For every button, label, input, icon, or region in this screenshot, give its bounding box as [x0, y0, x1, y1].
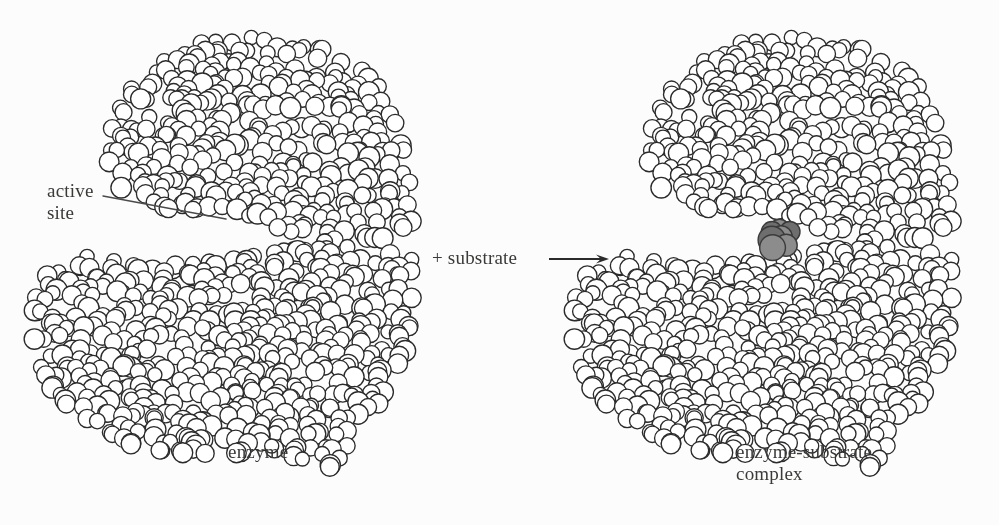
active-site-label: active site	[47, 180, 94, 225]
figure-page: active site + substrate enzyme enzyme-su…	[0, 0, 999, 525]
plus-substrate-label: + substrate	[432, 247, 517, 269]
enzyme-substrate-complex-label: enzyme-substrate complex	[736, 441, 872, 486]
enzyme-label: enzyme	[228, 441, 288, 463]
